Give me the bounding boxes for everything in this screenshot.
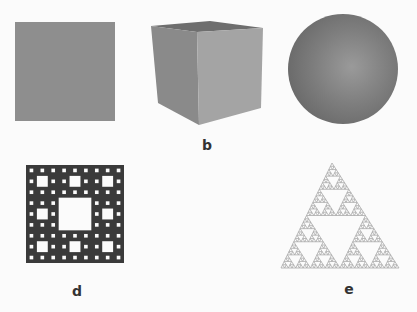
sierpinski-triangle-shape xyxy=(278,160,402,272)
panel-label-b: b xyxy=(202,137,212,153)
sphere-shape xyxy=(288,14,398,124)
panel-label-e: e xyxy=(344,281,354,297)
panel-label-d: d xyxy=(72,283,82,299)
sierpinski-carpet-shape xyxy=(26,165,124,263)
